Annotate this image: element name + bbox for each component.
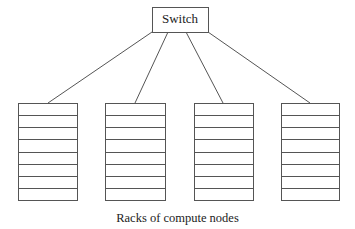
link-line-1 <box>48 32 152 103</box>
network-links <box>48 32 310 103</box>
rack-2 <box>106 104 166 201</box>
rack-1 <box>19 104 78 201</box>
link-line-3 <box>186 32 223 103</box>
link-line-4 <box>208 32 310 103</box>
diagram-canvas: Switch Racks of compute nodes <box>0 0 355 229</box>
compute-racks <box>19 104 340 201</box>
diagram-caption: Racks of compute nodes <box>0 211 355 226</box>
link-line-2 <box>135 32 168 103</box>
switch-label: Switch <box>152 11 208 27</box>
diagram-drawing <box>0 0 355 229</box>
rack-4 <box>282 104 340 201</box>
rack-3 <box>195 104 254 201</box>
